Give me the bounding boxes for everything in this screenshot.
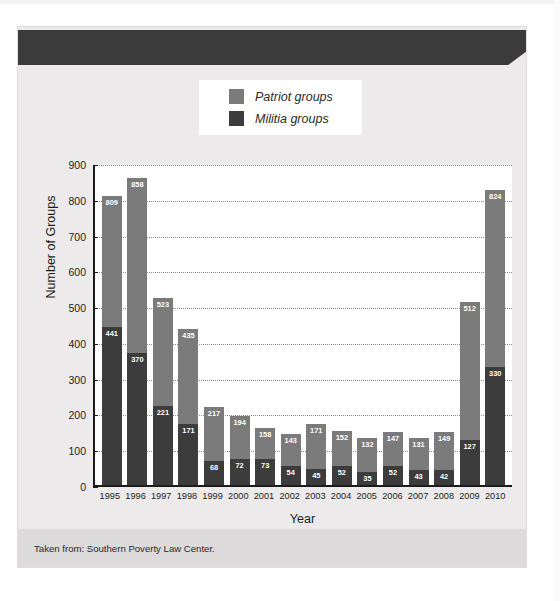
x-axis-tick-label: 2005 (354, 491, 380, 507)
source-band: Taken from: Southern Poverty Law Center. (18, 529, 526, 567)
bar-group: 809441 (99, 165, 125, 485)
bar-group: 512127 (457, 165, 483, 485)
bar-militia: 171 (178, 424, 198, 485)
bar-militia: 35 (357, 472, 377, 485)
bar-group: 15873 (252, 165, 278, 485)
bar-militia: 73 (255, 459, 275, 485)
bar-value-label-militia: 171 (182, 427, 194, 434)
bar-value-label-militia: 127 (463, 443, 475, 450)
y-axis-tick-mark (93, 451, 98, 452)
bar-militia: 45 (306, 469, 326, 485)
bar-value-label-patriot: 152 (336, 434, 348, 441)
x-axis-tick-labels: 1995199619971998199920002001200220032004… (93, 491, 512, 507)
y-axis-title: Number of Groups (44, 122, 58, 372)
bar-group: 21768 (201, 165, 227, 485)
bar-group: 13143 (406, 165, 432, 485)
x-axis-tick-label: 2004 (328, 491, 354, 507)
x-axis-tick-label: 1995 (97, 491, 123, 507)
source-text: Taken from: Southern Poverty Law Center. (34, 543, 215, 554)
bar-value-label-patriot: 147 (387, 435, 399, 442)
bar-value-label-patriot: 512 (463, 305, 475, 312)
bar-value-label-militia: 441 (106, 330, 118, 337)
chart-area: 0100200300400500600700800900 Number of G… (18, 150, 526, 540)
bar-value-label-militia: 370 (131, 356, 143, 363)
bar-group: 858370 (125, 165, 151, 485)
x-axis-tick-label: 1999 (200, 491, 226, 507)
bar-group: 14942 (431, 165, 457, 485)
y-axis-tick-mark (93, 415, 98, 416)
x-axis-title: Year (93, 512, 512, 526)
bar-militia: 72 (230, 459, 250, 485)
x-axis-tick-label: 2000 (225, 491, 251, 507)
scan-edge-right (554, 0, 560, 601)
bar-value-label-militia: 42 (440, 473, 448, 480)
bar-group: 523221 (150, 165, 176, 485)
bar-value-label-militia: 330 (489, 370, 501, 377)
bar-value-label-patriot: 143 (285, 437, 297, 444)
y-axis-tick-mark (93, 487, 98, 488)
x-axis-tick-label: 1997 (148, 491, 174, 507)
bar-militia: 127 (460, 440, 480, 485)
x-axis-tick-label: 2009 (457, 491, 483, 507)
bar-group: 14752 (380, 165, 406, 485)
bar-value-label-patriot: 858 (131, 181, 143, 188)
bar-militia: 42 (434, 470, 454, 485)
y-axis-tick-mark (93, 272, 98, 273)
bar-militia: 52 (332, 466, 352, 485)
legend-label-patriot: Patriot groups (255, 90, 333, 104)
x-axis-tick-label: 1998 (174, 491, 200, 507)
y-axis-tick-label: 200 (26, 409, 86, 421)
plot-area: 8094418583705232214351712176819472158731… (93, 165, 512, 487)
bar-group: 17145 (304, 165, 330, 485)
x-axis-tick-label: 1996 (123, 491, 149, 507)
bar-value-label-militia: 43 (414, 473, 422, 480)
x-axis-tick-label: 2010 (482, 491, 508, 507)
bar-group: 824330 (482, 165, 508, 485)
bar-militia: 221 (153, 406, 173, 485)
bar-value-label-patriot: 217 (208, 410, 220, 417)
x-axis-tick-label: 2006 (380, 491, 406, 507)
bar-value-label-militia: 54 (287, 469, 295, 476)
title-banner (18, 30, 526, 65)
bar-group: 19472 (227, 165, 253, 485)
legend-label-militia: Militia groups (255, 112, 329, 126)
bar-militia: 52 (383, 466, 403, 485)
legend-item-patriot: Patriot groups (229, 89, 362, 104)
y-axis-tick-mark (93, 308, 98, 309)
y-axis-tick-mark (93, 344, 98, 345)
bar-series-container: 8094418583705232214351712176819472158731… (95, 165, 512, 485)
bar-value-label-patriot: 194 (233, 419, 245, 426)
bar-value-label-militia: 221 (157, 409, 169, 416)
bar-value-label-militia: 72 (235, 462, 243, 469)
bar-value-label-militia: 35 (363, 475, 371, 482)
chart-page: PATRIOT AND MILITIA GROUPS IN THE UNITED… (0, 0, 560, 601)
bar-group: 435171 (176, 165, 202, 485)
x-axis-tick-label: 2007 (405, 491, 431, 507)
y-axis-tick-mark (93, 165, 98, 166)
x-axis-tick-label: 2001 (251, 491, 277, 507)
bar-militia: 330 (485, 367, 505, 485)
y-axis-tick-label: 0 (26, 481, 86, 493)
chart-title: PATRIOT AND MILITIA GROUPS IN THE UNITED… (20, 0, 429, 35)
bar-group: 14354 (278, 165, 304, 485)
bar-value-label-militia: 52 (389, 469, 397, 476)
legend-swatch-patriot-icon (229, 89, 244, 104)
bar-value-label-patriot: 523 (157, 301, 169, 308)
bar-value-label-patriot: 171 (310, 427, 322, 434)
bar-value-label-patriot: 132 (361, 441, 373, 448)
bar-militia: 43 (409, 470, 429, 485)
y-axis-tick-mark (93, 201, 98, 202)
bar-militia: 370 (127, 353, 147, 485)
x-axis-tick-label: 2002 (277, 491, 303, 507)
y-axis-tick-mark (93, 380, 98, 381)
y-axis-tick-label: 100 (26, 445, 86, 457)
bar-militia: 54 (281, 466, 301, 485)
x-axis-tick-label: 2003 (303, 491, 329, 507)
x-axis-tick-label: 2008 (431, 491, 457, 507)
bar-value-label-patriot: 809 (106, 199, 118, 206)
y-axis-tick-label: 300 (26, 374, 86, 386)
bar-value-label-patriot: 824 (489, 193, 501, 200)
y-axis-tick-mark (93, 237, 98, 238)
bar-value-label-patriot: 158 (259, 431, 271, 438)
bar-group: 15252 (329, 165, 355, 485)
